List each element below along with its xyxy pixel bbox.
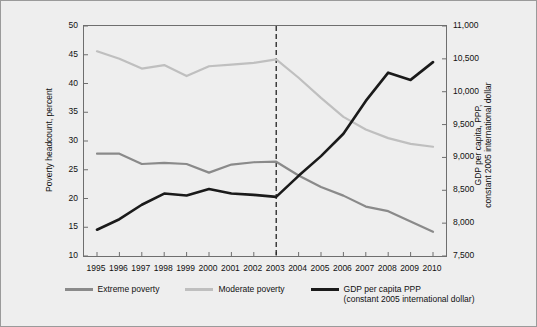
right-tick-label: 8,500 [453,184,474,194]
series-line-2 [97,62,433,230]
x-tick-label: 1998 [152,263,174,273]
left-tick-label: 10 [61,250,78,260]
legend-item: GDP per capita PPP (constant 2005 intern… [311,284,475,304]
x-tick-label: 2006 [331,263,353,273]
right-tick-label: 9,500 [453,119,474,129]
legend-label: Moderate poverty [218,284,284,294]
legend-swatch [65,288,93,291]
x-tick-label: 1995 [85,263,107,273]
x-tick-label: 2001 [219,263,241,273]
chart-legend: Extreme povertyModerate povertyGDP per c… [1,284,537,304]
x-tick-label: 2007 [354,263,376,273]
left-tick-label: 50 [61,20,78,30]
right-tick-label: 9,000 [453,151,474,161]
x-tick-label: 2003 [264,263,286,273]
series-line-0 [97,154,433,232]
right-tick-label: 7,500 [453,250,474,260]
left-axis-title: Poverty headcount, percent [44,24,54,256]
x-tick-label: 2004 [287,263,309,273]
legend-item: Moderate poverty [185,284,284,294]
right-tick-label: 10,000 [453,86,479,96]
left-tick-label: 25 [61,164,78,174]
left-tick-label: 45 [61,49,78,59]
x-tick-label: 1997 [130,263,152,273]
x-tick-label: 1996 [107,263,129,273]
left-tick-label: 35 [61,106,78,116]
right-tick-label: 8,000 [453,217,474,227]
left-tick-label: 15 [61,221,78,231]
left-tick-label: 20 [61,193,78,203]
legend-swatch [185,288,213,291]
x-tick-label: 2009 [399,263,421,273]
chart-frame: Poverty headcount, percent GDP per capit… [0,0,537,327]
x-tick-label: 2010 [421,263,443,273]
right-axis-title: GDP per capita, PPP, constant 2005 inter… [473,29,493,261]
x-tick-label: 1999 [175,263,197,273]
x-tick-label: 2008 [376,263,398,273]
right-tick-label: 10,500 [453,53,479,63]
plot-area [83,25,447,257]
legend-item: Extreme poverty [65,284,160,294]
legend-label: GDP per capita PPP (constant 2005 intern… [344,284,475,304]
right-tick-label: 11,000 [453,20,478,30]
legend-swatch [311,288,339,291]
x-tick-label: 2000 [197,263,219,273]
plot-svg [84,26,446,256]
legend-label: Extreme poverty [98,284,160,294]
series-line-1 [97,51,433,146]
x-tick-label: 2002 [242,263,264,273]
x-tick-label: 2005 [309,263,331,273]
left-tick-label: 30 [61,135,78,145]
left-tick-label: 40 [61,78,78,88]
